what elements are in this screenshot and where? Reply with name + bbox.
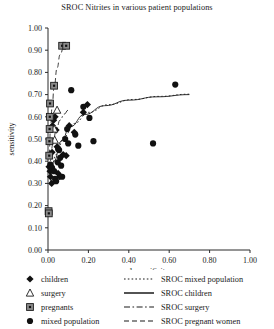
point-pregnants (47, 100, 54, 107)
square-dot-icon (22, 300, 38, 314)
point-mixed-population (80, 104, 86, 110)
legend-item-sroc-surgery: SROC surgery (122, 300, 274, 314)
point-pregnants (51, 82, 58, 89)
point-mixed-population (56, 147, 62, 153)
point-mixed-population (51, 168, 57, 174)
legend-label: SROC pregnant women (158, 317, 240, 326)
svg-text:0.90: 0.90 (28, 46, 42, 55)
svg-text:0.80: 0.80 (203, 256, 217, 265)
point-mixed-population (57, 155, 63, 161)
svg-text:0.10: 0.10 (28, 224, 42, 233)
svg-text:0.30: 0.30 (28, 179, 42, 188)
svg-text:0.00: 0.00 (41, 256, 55, 265)
svg-text:1.00: 1.00 (243, 256, 257, 265)
svg-text:1-specificity: 1-specificity (129, 267, 169, 270)
legend-item-pregnants: pregnants (22, 300, 132, 314)
legend-label: pregnants (38, 303, 73, 312)
open-triangle-icon (22, 286, 38, 300)
legend-label: children (38, 275, 68, 284)
legend-label: surgery (38, 289, 66, 298)
svg-text:0.50: 0.50 (28, 135, 42, 144)
point-mixed-population (59, 174, 65, 180)
legend-item-children: children (22, 272, 132, 286)
legend-item-sroc-children: SROC children (122, 286, 274, 300)
line-style-dotted-icon (122, 272, 158, 286)
svg-text:1.00: 1.00 (28, 24, 42, 33)
point-mixed-population (65, 140, 71, 146)
point-mixed-population (172, 82, 178, 88)
svg-text:sensitivity: sensitivity (7, 123, 16, 156)
point-mixed-population (58, 163, 64, 169)
point-mixed-population (86, 115, 92, 121)
point-surgery (53, 106, 60, 113)
legend-label: SROC children (158, 289, 212, 298)
svg-text:0.60: 0.60 (162, 256, 176, 265)
point-mixed-population (150, 140, 156, 146)
point-pregnants (46, 138, 53, 145)
legend-label: SROC surgery (158, 303, 209, 312)
point-mixed-population (64, 126, 70, 132)
curve-sroc-mixed-population (50, 94, 189, 177)
line-style-dash-dot-icon (122, 300, 158, 314)
line-style-dashed-icon (122, 314, 158, 328)
point-mixed-population (53, 178, 59, 184)
chart-legend: childrensurgerypregnantsmixed population… (22, 272, 272, 328)
point-mixed-population (72, 131, 78, 137)
point-pregnants (63, 42, 70, 49)
sroc-curves (49, 44, 189, 183)
legend-label: mixed population (38, 317, 99, 326)
axis-labels: 0.000.100.200.300.400.500.600.700.800.90… (7, 24, 257, 270)
point-pregnants (46, 113, 53, 120)
curve-sroc-children (50, 95, 190, 184)
legend-lines-column: SROC mixed populationSROC childrenSROC s… (122, 272, 274, 328)
svg-text:0.00: 0.00 (28, 246, 42, 255)
point-mixed-population (75, 143, 81, 149)
line-style-solid-icon (122, 286, 158, 300)
svg-text:0.20: 0.20 (81, 256, 95, 265)
svg-text:0.20: 0.20 (28, 201, 42, 210)
svg-text:0.70: 0.70 (28, 90, 42, 99)
axes (45, 28, 250, 253)
point-pregnants (46, 126, 53, 133)
svg-text:0.40: 0.40 (28, 157, 42, 166)
legend-item-sroc-mixed-population: SROC mixed population (122, 272, 274, 286)
svg-text:0.60: 0.60 (28, 113, 42, 122)
filled-circle-icon (22, 314, 38, 328)
svg-text:0.40: 0.40 (122, 256, 136, 265)
svg-text:0.80: 0.80 (28, 68, 42, 77)
point-pregnants (45, 210, 52, 217)
legend-markers-column: childrensurgerypregnantsmixed population (22, 272, 132, 328)
plot-area: 0.000.100.200.300.400.500.600.700.800.90… (0, 0, 274, 270)
point-mixed-population (90, 138, 96, 144)
filled-diamond-icon (22, 272, 38, 286)
data-points (45, 42, 178, 216)
point-mixed-population (68, 87, 74, 93)
legend-item-mixed-population: mixed population (22, 314, 132, 328)
point-pregnants (46, 152, 53, 159)
legend-label: SROC mixed population (158, 275, 243, 284)
legend-item-sroc-pregnant-women: SROC pregnant women (122, 314, 274, 328)
sroc-chart: SROC Nitrites in various patient populat… (0, 0, 274, 329)
legend-item-surgery: surgery (22, 286, 132, 300)
